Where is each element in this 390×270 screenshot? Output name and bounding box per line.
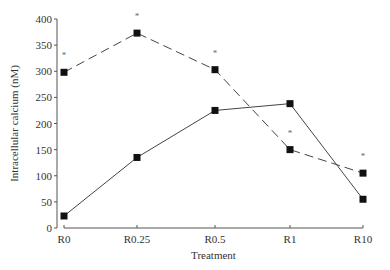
- data-point-marker: [134, 30, 141, 37]
- y-tick-label: 350: [36, 39, 53, 51]
- line-chart: 050100150200250300350400Intracellular ca…: [0, 0, 390, 270]
- y-tick-label: 100: [36, 170, 53, 182]
- y-tick-label: 250: [36, 91, 53, 103]
- y-tick-label: 400: [36, 13, 53, 25]
- data-point-marker: [61, 69, 68, 76]
- y-axis: 050100150200250300350400Intracellular ca…: [8, 13, 57, 234]
- data-point-marker: [61, 212, 68, 219]
- data-point-marker: [287, 146, 294, 153]
- significance-asterisk: *: [213, 48, 218, 58]
- y-tick-label: 200: [36, 118, 53, 130]
- data-point-marker: [212, 107, 219, 114]
- significance-asterisk: *: [135, 11, 140, 21]
- x-tick-label: R0.5: [204, 233, 226, 245]
- x-tick-label: R10: [354, 233, 373, 245]
- data-point-marker: [287, 100, 294, 107]
- x-axis: R0R0.25R0.5R1R10Treatment: [58, 225, 373, 261]
- y-tick-label: 300: [36, 65, 53, 77]
- x-tick-label: R0: [58, 233, 71, 245]
- y-tick-label: 50: [41, 196, 53, 208]
- series-dashed: *****: [61, 11, 367, 177]
- data-point-marker: [134, 154, 141, 161]
- y-tick-label: 150: [36, 144, 53, 156]
- x-tick-label: R0.25: [124, 233, 151, 245]
- data-point-marker: [360, 170, 367, 177]
- significance-asterisk: *: [62, 50, 67, 60]
- data-point-marker: [360, 196, 367, 203]
- y-axis-title: Intracellular calcium (nM): [8, 65, 21, 182]
- x-tick-label: R1: [284, 233, 297, 245]
- significance-asterisk: *: [288, 128, 293, 138]
- x-axis-title: Treatment: [191, 249, 236, 261]
- significance-asterisk: *: [361, 151, 366, 161]
- data-point-marker: [212, 66, 219, 73]
- y-tick-label: 0: [47, 222, 53, 234]
